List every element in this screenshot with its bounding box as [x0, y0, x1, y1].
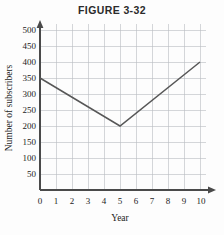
y-tick-label: 200: [23, 121, 37, 131]
y-tick-label: 300: [23, 89, 37, 99]
y-tick-label: 100: [23, 153, 37, 163]
vertical-gridlines: [40, 24, 200, 190]
x-axis: [40, 187, 216, 194]
x-tick-label: 0: [38, 196, 43, 206]
x-tick-label: 8: [166, 196, 171, 206]
x-axis-title: Year: [111, 213, 129, 223]
figure-container: FIGURE 3-32: [0, 0, 224, 235]
horizontal-gridlines: [40, 30, 206, 190]
y-axis-title: Number of subscribers: [4, 64, 14, 151]
x-tick-label: 2: [70, 196, 75, 206]
x-tick-labels: 0 1 2 3 4 5 6 7 8 9 10: [38, 196, 206, 206]
y-tick-label: 250: [23, 105, 37, 115]
line-chart: 500 450 400 350 300 250 200 150 100 50 0…: [0, 18, 224, 235]
y-tick-label: 500: [23, 25, 37, 35]
x-tick-label: 4: [102, 196, 107, 206]
x-tick-label: 6: [134, 196, 139, 206]
x-tick-label: 9: [182, 196, 187, 206]
x-tick-label: 3: [86, 196, 91, 206]
y-tick-label: 450: [23, 41, 37, 51]
x-tick-label: 1: [54, 196, 59, 206]
figure-title: FIGURE 3-32: [0, 4, 224, 16]
y-tick-label: 150: [23, 137, 37, 147]
x-tick-label: 7: [150, 196, 155, 206]
y-tick-labels: 500 450 400 350 300 250 200 150 100 50: [23, 25, 37, 179]
x-tick-label: 10: [197, 196, 207, 206]
y-axis: [37, 20, 44, 190]
y-tick-label: 50: [27, 169, 37, 179]
y-tick-label: 350: [23, 73, 37, 83]
x-tick-label: 5: [118, 196, 123, 206]
y-tick-label: 400: [23, 57, 37, 67]
